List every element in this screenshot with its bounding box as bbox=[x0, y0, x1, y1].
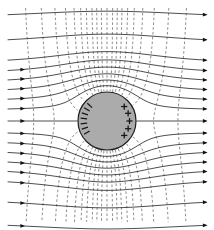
equipotential-line bbox=[97, 8, 102, 92]
field-direction-arrow bbox=[20, 119, 25, 123]
field-direction-arrow bbox=[203, 160, 208, 164]
equipotential-line bbox=[92, 8, 99, 92]
field-direction-arrow bbox=[20, 68, 25, 72]
equipotential-line bbox=[110, 8, 113, 91]
field-direction-arrow bbox=[20, 151, 25, 155]
field-direction-arrow bbox=[20, 107, 25, 111]
field-direction-arrow bbox=[20, 142, 25, 146]
field-direction-arrow bbox=[203, 97, 208, 101]
field-direction-arrow bbox=[20, 201, 25, 205]
field-direction-arrow bbox=[20, 161, 25, 165]
field-direction-arrow bbox=[203, 131, 208, 135]
field-direction-arrow bbox=[203, 58, 208, 62]
equipotential-line bbox=[101, 8, 104, 91]
equipotential-line bbox=[41, 8, 54, 222]
field-direction-arrow bbox=[203, 119, 208, 123]
field-direction-arrow bbox=[203, 38, 208, 42]
equipotential-line bbox=[113, 8, 118, 92]
field-direction-arrow bbox=[20, 132, 25, 136]
field-direction-arrow bbox=[20, 87, 25, 91]
equipotential-line bbox=[118, 8, 127, 93]
field-direction-arrow bbox=[203, 151, 208, 155]
field-direction-arrow bbox=[203, 88, 208, 92]
field-diagram-figure bbox=[0, 0, 214, 230]
equipotential-line bbox=[178, 8, 187, 222]
equipotential-line bbox=[154, 8, 169, 222]
field-direction-arrow bbox=[203, 170, 208, 174]
minus-sign-icon bbox=[81, 118, 87, 119]
field-direction-arrow bbox=[20, 97, 25, 101]
field-direction-arrow bbox=[203, 13, 208, 17]
field-direction-arrow bbox=[203, 180, 208, 184]
field-direction-arrow bbox=[20, 224, 25, 228]
field-direction-arrow bbox=[20, 77, 25, 81]
electric-field-line bbox=[8, 225, 206, 229]
equipotential-line bbox=[115, 8, 122, 92]
minus-sign-icon bbox=[81, 123, 87, 124]
field-direction-arrow bbox=[203, 78, 208, 82]
field-direction-arrow bbox=[203, 69, 208, 73]
equipotential-line bbox=[86, 8, 95, 93]
equipotential-line bbox=[26, 8, 34, 222]
field-direction-arrow bbox=[203, 107, 208, 111]
equipotential-line bbox=[133, 8, 154, 105]
field-direction-arrow bbox=[20, 181, 25, 185]
field-direction-arrow bbox=[203, 141, 208, 145]
field-direction-arrow bbox=[20, 171, 25, 175]
field-direction-arrow bbox=[203, 223, 208, 227]
field-direction-arrow bbox=[203, 200, 208, 204]
field-diagram-canvas bbox=[0, 0, 214, 230]
